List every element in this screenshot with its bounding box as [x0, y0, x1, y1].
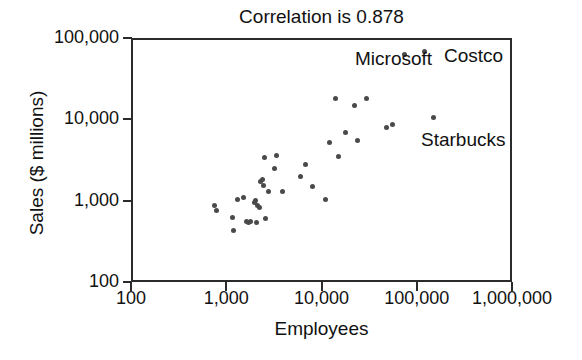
x-tick-label: 1,000,000: [452, 288, 572, 308]
annotation-label-microsoft: Microsoft: [355, 48, 432, 70]
data-point: [280, 189, 285, 194]
x-axis-title: Employees: [131, 318, 512, 340]
data-point: [390, 122, 395, 127]
plot-area: [131, 38, 512, 282]
y-tick-label: 10,000: [0, 109, 119, 127]
y-tick-mark: [123, 118, 132, 120]
annotation-label-starbucks: Starbucks: [421, 129, 505, 151]
annotation-label-costco: Costco: [444, 45, 503, 67]
y-axis-title: Sales ($ millions): [26, 38, 48, 288]
data-point: [333, 96, 338, 101]
y-tick-mark: [123, 37, 132, 39]
data-point: [262, 155, 267, 160]
data-point: [231, 228, 236, 233]
data-point: [261, 183, 266, 188]
data-point: [336, 154, 341, 159]
y-tick-label: 1,000: [0, 191, 119, 209]
data-point: [327, 140, 332, 145]
data-point: [214, 208, 219, 213]
y-tick-label: 100,000: [0, 28, 119, 46]
scatter-plot-figure: Correlation is 0.878 1001,00010,000100,0…: [0, 0, 582, 360]
data-point: [352, 103, 357, 108]
data-point: [248, 219, 253, 224]
y-tick-mark: [123, 200, 132, 202]
data-point: [272, 166, 277, 171]
data-point: [298, 174, 303, 179]
data-point: [230, 215, 235, 220]
chart-title: Correlation is 0.878: [131, 6, 512, 28]
data-point: [384, 125, 389, 130]
